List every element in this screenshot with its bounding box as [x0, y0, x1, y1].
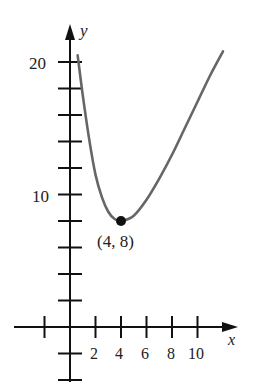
point-label: (4, 8) — [97, 232, 134, 251]
y-axis-label: y — [78, 21, 88, 40]
x-tick-label-6: 6 — [141, 345, 149, 362]
x-tick-label-4: 4 — [115, 345, 123, 362]
y-tick-label-20: 20 — [29, 54, 46, 73]
y-tick-label-10: 10 — [32, 187, 49, 206]
x-tick-label-2: 2 — [90, 345, 98, 362]
y-axis-arrow-icon — [65, 24, 75, 40]
x-axis-label: x — [227, 331, 235, 348]
minimum-point — [116, 216, 126, 226]
curve-line — [78, 51, 223, 221]
function-graph: y x 20 10 2 4 6 8 10 (4, 8) — [0, 0, 255, 392]
x-tick-label-10: 10 — [188, 345, 204, 362]
x-tick-label-8: 8 — [167, 345, 175, 362]
